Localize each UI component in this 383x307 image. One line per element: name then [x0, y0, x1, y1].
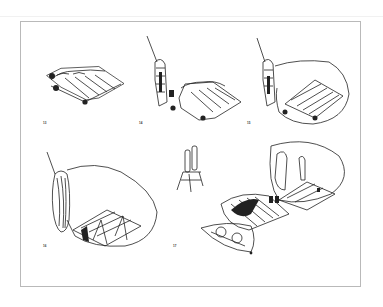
figure-14: [141, 32, 251, 132]
illustration-plate-frame: 13 14: [20, 21, 361, 287]
figure-15-caption: 15: [247, 122, 250, 125]
figure-13: [45, 62, 125, 122]
figure-14-caption: 14: [139, 122, 142, 125]
figure-17: [171, 134, 356, 259]
figure-15-drawing: [249, 32, 359, 132]
figure-16: [45, 150, 165, 250]
figure-15: [249, 32, 359, 132]
page-top-edge: [0, 16, 383, 17]
figure-16-caption: 16: [43, 245, 46, 248]
figure-16-drawing: [45, 150, 165, 250]
figure-17-drawing: [171, 134, 356, 259]
twin-tank-apparatus: [177, 146, 203, 192]
figure-14-drawing: [141, 32, 251, 132]
figure-13-caption: 13: [43, 122, 46, 125]
figure-13-drawing: [45, 62, 125, 122]
figure-17-caption: 17: [173, 245, 176, 248]
